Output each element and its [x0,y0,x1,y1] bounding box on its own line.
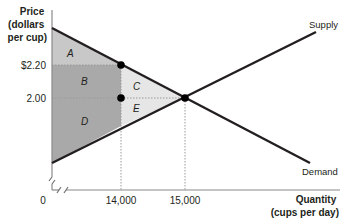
equilibrium-point [181,94,189,102]
area-label-c: C [133,81,141,92]
area-label-d: D [81,116,88,127]
area-label-e: E [133,103,140,114]
point-14000-2.00 [117,94,125,102]
supply-label: Supply [309,19,338,30]
area-c-e [121,65,185,126]
x-tick-0: 0 [40,195,46,206]
x-tick-14000: 14,000 [106,195,137,206]
y-tick-2-00: 2.00 [27,93,47,104]
point-14000-2.20 [117,61,125,69]
demand-label: Demand [302,166,338,177]
x-tick-15000: 15,000 [170,195,201,206]
y-axis-title: Price (dollars per cup) [8,6,47,43]
y-tick-2-20: $2.20 [21,60,46,71]
chart: A B C D E Price (dollars per cup) $2.20 … [0,0,348,224]
x-axis-title: Quantity (cups per day) [271,194,339,218]
area-label-b: B [81,76,88,87]
area-label-a: A [66,48,74,59]
